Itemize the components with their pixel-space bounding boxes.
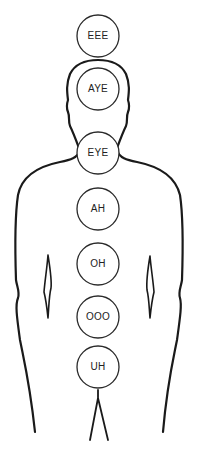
chakra-label-aye: AYE (77, 82, 119, 96)
legs-outline (90, 390, 108, 440)
chakra-label-ah: AH (77, 202, 119, 216)
chakra-label-eye: EYE (77, 146, 119, 160)
chakra-label-eee: EEE (77, 29, 119, 43)
right-arm-gap (147, 256, 154, 318)
body-chakra-diagram (0, 0, 205, 458)
left-arm-gap (44, 255, 51, 318)
chakra-label-oh: OH (77, 257, 119, 271)
left-body-outline (15, 150, 80, 432)
chakra-label-uh: UH (77, 360, 119, 374)
right-body-outline (117, 150, 183, 432)
chakra-label-ooo: OOO (77, 310, 119, 324)
